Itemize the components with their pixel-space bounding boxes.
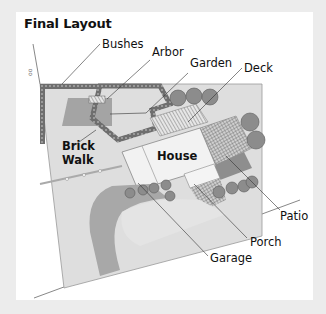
label-walk: Walk bbox=[62, 154, 94, 167]
property-line bbox=[33, 44, 40, 84]
label-deck: Deck bbox=[244, 62, 273, 75]
arbor bbox=[89, 96, 105, 103]
label-bushes: Bushes bbox=[102, 38, 144, 51]
label-porch: Porch bbox=[250, 236, 282, 249]
label-garage: Garage bbox=[210, 252, 252, 265]
svg-text:oo: oo bbox=[26, 68, 33, 76]
bushes-row bbox=[40, 84, 45, 144]
label-garden: Garden bbox=[190, 57, 232, 70]
label-arbor: Arbor bbox=[152, 46, 184, 59]
label-house: House bbox=[157, 150, 197, 163]
bushes-row bbox=[40, 84, 100, 89]
label-brick: Brick bbox=[62, 140, 95, 153]
label-patio: Patio bbox=[280, 210, 308, 223]
